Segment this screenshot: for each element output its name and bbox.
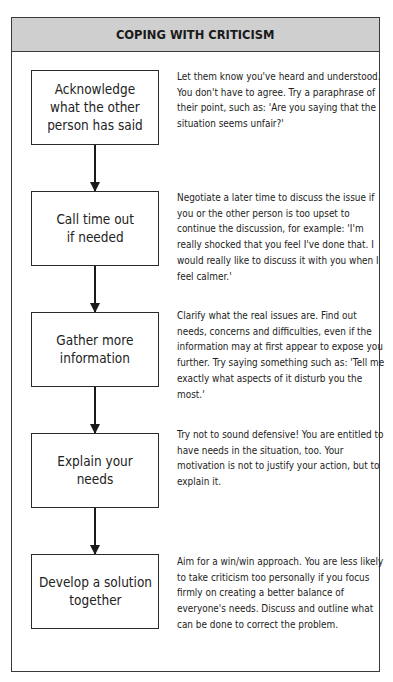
step-box-call-time-out: Call time out if needed — [31, 191, 159, 266]
step-description-call-time-out: Negotiate a later time to discuss the is… — [177, 190, 382, 284]
step-label: Develop a solution together — [38, 574, 151, 610]
step-label: Call time out if needed — [56, 211, 134, 247]
arrow-down-icon — [94, 508, 96, 554]
step-box-explain-needs: Explain your needs — [31, 433, 159, 508]
step-box-acknowledge: Acknowledge what the other person has sa… — [31, 70, 159, 145]
step-label: Acknowledge what the other person has sa… — [47, 81, 143, 135]
step-box-gather-information: Gather more information — [31, 312, 159, 387]
arrow-down-icon — [94, 266, 96, 312]
diagram-frame: COPING WITH CRITICISM Acknowledge what t… — [11, 17, 380, 672]
step-description-gather-information: Clarify what the real issues are. Find o… — [177, 308, 382, 402]
arrow-down-icon — [94, 145, 96, 191]
step-label: Gather more information — [56, 332, 133, 368]
arrow-down-icon — [94, 387, 96, 433]
step-description-acknowledge: Let them know you've heard and understoo… — [177, 69, 382, 132]
step-description-explain-needs: Try not to sound defensive! You are enti… — [177, 427, 382, 490]
step-label: Explain your needs — [37, 453, 153, 489]
diagram-title: COPING WITH CRITICISM — [116, 27, 275, 42]
diagram-header: COPING WITH CRITICISM — [12, 18, 379, 52]
step-box-develop-solution: Develop a solution together — [31, 554, 159, 629]
step-description-develop-solution: Aim for a win/win approach. You are less… — [177, 554, 382, 633]
